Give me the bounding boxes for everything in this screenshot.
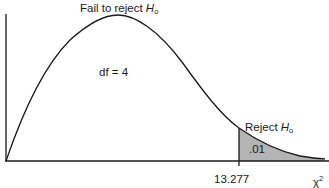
density-curve: [6, 15, 325, 161]
h-symbol: H: [146, 2, 154, 14]
alpha-area-label: .01: [249, 143, 265, 155]
df-label: df = 4: [99, 66, 128, 78]
fail-to-reject-text: Fail to reject: [80, 2, 146, 14]
chi-exponent: 2: [319, 174, 323, 183]
critical-value-tick-label: 13.277: [214, 173, 249, 185]
h-symbol: H: [281, 121, 289, 133]
reject-text: Reject: [245, 121, 281, 133]
h-subscript: o: [289, 126, 293, 135]
chi-square-plot: [0, 0, 329, 188]
reject-label: Reject Ho: [245, 121, 293, 137]
h-subscript: o: [154, 7, 158, 16]
fail-to-reject-label: Fail to reject Ho: [80, 2, 158, 18]
x-axis-label: χ2: [313, 173, 323, 188]
